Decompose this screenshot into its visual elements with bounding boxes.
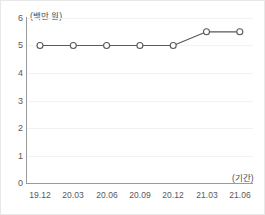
- data-point-marker: [137, 43, 143, 49]
- data-point-marker: [37, 43, 43, 49]
- data-point-marker: [237, 29, 243, 35]
- x-axis-label: (기간): [232, 173, 254, 183]
- chart-plot-area: [1, 1, 265, 215]
- data-point-marker: [104, 43, 110, 49]
- data-point-marker: [70, 43, 76, 49]
- x-tick-label: 21.06: [220, 190, 260, 200]
- data-point-marker: [170, 43, 176, 49]
- chart-figure: (백만 원) 6 5 4 3 2 1 0 19.12 20.03 20.06 2…: [0, 0, 265, 215]
- data-point-marker: [204, 29, 210, 35]
